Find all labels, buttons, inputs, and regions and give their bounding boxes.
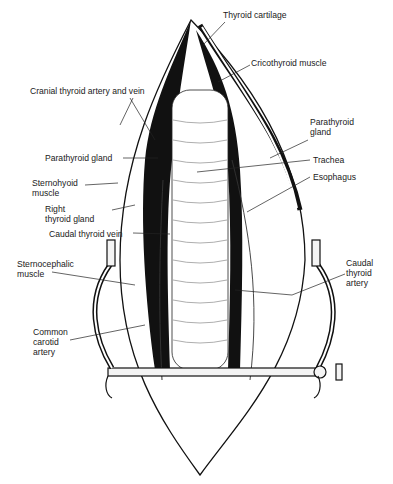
anatomy-illustration <box>0 0 393 484</box>
label-caudal-thyroid-vein: Caudal thyroid vein <box>49 229 123 239</box>
label-cricothyroid-muscle: Cricothyroid muscle <box>251 58 326 68</box>
label-parathyroid-gland-left: Parathyroid gland <box>45 153 112 163</box>
retractor-bar <box>108 368 318 376</box>
label-parathyroid-gland-right: Parathyroid gland <box>310 117 354 137</box>
label-sternocephalic-muscle: Sternocephalic muscle <box>17 259 74 279</box>
retractor-thumbscrew <box>314 366 326 378</box>
label-right-thyroid-gland: Right thyroid gland <box>45 204 94 224</box>
label-common-carotid-artery: Common carotid artery <box>33 327 68 357</box>
label-trachea: Trachea <box>313 155 344 165</box>
label-sternohyoid-muscle: Sternohyoid muscle <box>32 178 78 198</box>
label-thyroid-cartilage: Thyroid cartilage <box>223 10 287 20</box>
label-caudal-thyroid-artery: Caudal thyroid artery <box>346 258 373 288</box>
trachea <box>172 90 228 370</box>
label-esophagus: Esophagus <box>313 172 356 182</box>
label-cranial-thyroid-artery-vein: Cranial thyroid artery and vein <box>30 86 145 96</box>
